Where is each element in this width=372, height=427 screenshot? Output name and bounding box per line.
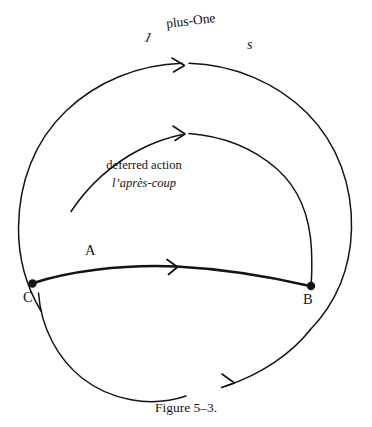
label-deferred-action: deferred action — [106, 159, 181, 172]
outer-circle-bottom-left-arc — [39, 293, 187, 402]
outer-circle-bottom-right-arc — [226, 330, 310, 386]
inner-arc-right — [189, 134, 312, 284]
point-c-dot — [28, 279, 36, 287]
label-s: s — [247, 38, 252, 52]
figure-caption: Figure 5–3. — [0, 400, 372, 416]
label-apres-coup: l’après-coup — [112, 177, 176, 190]
outer-top-arrowhead-icon — [172, 58, 185, 72]
diagram-canvas — [0, 0, 372, 427]
figure-page: 1 plus-One s deferred action l’après-cou… — [0, 0, 372, 427]
label-point-b: B — [303, 292, 313, 307]
outer-bottom-arrowhead-icon — [222, 374, 235, 388]
inner-arc-arrowhead-icon — [173, 126, 185, 141]
label-point-c: C — [23, 290, 33, 305]
inner-arc-left — [71, 135, 182, 212]
point-b-dot — [307, 282, 315, 290]
label-point-a: A — [85, 243, 95, 258]
chord-a-line — [34, 266, 311, 286]
outer-circle-right-arc — [189, 63, 352, 330]
